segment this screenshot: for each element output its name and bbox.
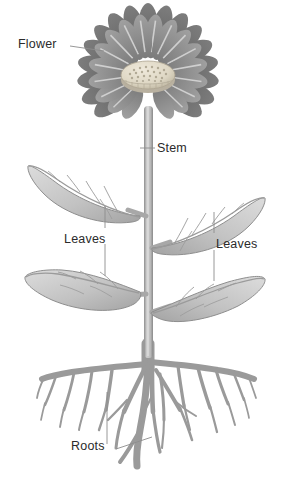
- plant-anatomy-diagram: Flower Stem Leaves Leaves Roots: [0, 0, 284, 484]
- lower-left-leaf: [25, 270, 141, 311]
- root-system: [37, 344, 256, 466]
- upper-left-leaf: [28, 166, 140, 223]
- label-flower: Flower: [18, 38, 57, 51]
- label-leaves-right: Leaves: [216, 238, 258, 251]
- label-stem: Stem: [157, 142, 187, 155]
- label-roots: Roots: [71, 440, 105, 453]
- label-leaves-left: Leaves: [64, 233, 106, 246]
- flower-head: [76, 3, 219, 123]
- flower-center-disc: [121, 61, 175, 93]
- lower-right-leaf: [151, 276, 265, 321]
